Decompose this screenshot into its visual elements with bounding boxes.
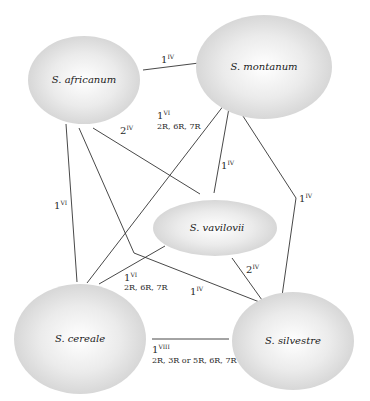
edge-label-cereale-silvestre: 1VIII 2R, 3R or 5R, 6R, 7R <box>152 343 238 365</box>
edge-vavilovii-cereale <box>99 246 165 284</box>
svg-text:1IV: 1IV <box>190 285 204 297</box>
node-label: S. montanum <box>230 61 297 72</box>
edge-label-montanum-silvestre: 1IV <box>299 192 313 204</box>
svg-text:1VI: 1VI <box>54 199 68 211</box>
edge-africanum-cereale <box>66 124 77 282</box>
node-label: S. africanum <box>52 74 116 85</box>
svg-text:1IV: 1IV <box>161 53 175 65</box>
edge-label-montanum-cereale: 1VI 2R, 6R, 7R <box>157 109 201 131</box>
svg-text:2R, 3R or 5R, 6R, 7R: 2R, 3R or 5R, 6R, 7R <box>152 356 238 365</box>
edge-montanum-vavilovii <box>214 108 229 193</box>
edge-label-africanum-montanum: 1IV <box>161 53 175 65</box>
svg-text:1IV: 1IV <box>299 192 313 204</box>
node-label: S. cereale <box>55 333 105 344</box>
edge-label-africanum-vavilovii: 2IV <box>120 124 134 136</box>
edge-label-vavilovii-cereale: 1VI 2R, 6R, 7R <box>124 271 168 292</box>
edge-label-vavilovii-silvestre: 2IV <box>246 263 260 275</box>
edge-label-africanum-cereale: 1VI <box>54 199 68 211</box>
edge-label-montanum-vavilovii: 1IV <box>221 159 235 171</box>
node-montanum: S. montanum <box>196 15 332 119</box>
svg-text:1VI: 1VI <box>157 109 171 121</box>
node-africanum: S. africanum <box>28 36 140 124</box>
svg-text:2R, 6R, 7R: 2R, 6R, 7R <box>157 122 201 131</box>
node-silvestre: S. silvestre <box>232 292 354 390</box>
node-label: S. silvestre <box>265 335 321 346</box>
svg-text:1VIII: 1VIII <box>152 343 170 355</box>
node-cereale: S. cereale <box>14 284 146 394</box>
edge-label-africanum-silvestre: 1IV <box>190 285 204 297</box>
edge-africanum-vavilovii <box>93 128 200 194</box>
svg-text:2R, 6R, 7R: 2R, 6R, 7R <box>124 283 168 292</box>
node-label: S. vavilovii <box>190 222 245 233</box>
edge-africanum-montanum <box>143 63 199 70</box>
species-diagram: S. africanum S. montanum S. vavilovii S.… <box>0 0 370 401</box>
svg-text:2IV: 2IV <box>120 124 134 136</box>
svg-text:2IV: 2IV <box>246 263 260 275</box>
svg-text:1IV: 1IV <box>221 159 235 171</box>
svg-text:1VI: 1VI <box>124 271 138 283</box>
node-vavilovii: S. vavilovii <box>153 200 277 256</box>
